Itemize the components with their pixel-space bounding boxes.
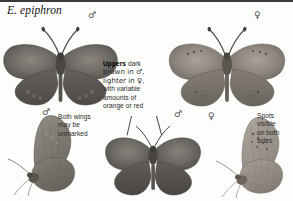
- caption-unmarked-line1: Both wings: [58, 113, 91, 120]
- top-rule: [0, 0, 293, 2]
- caption-uppers-line3: lighter in ♀,: [103, 77, 145, 85]
- specimen-male-upperside-lower: [105, 124, 201, 201]
- sex-symbol-female-top-right: ♀: [254, 11, 261, 20]
- caption-uppers-line6: orange or red: [103, 102, 143, 109]
- specimen-female-upperside: [168, 20, 286, 108]
- caption-uppers-line2: brown in ♂,: [103, 68, 145, 76]
- caption-spots: Spots visible on both sides: [257, 112, 291, 146]
- page-title: E. epiphron: [7, 4, 62, 16]
- caption-spots-line4: sides: [257, 137, 273, 144]
- sex-symbol-male-bottom-center: ♂: [174, 110, 182, 119]
- caption-uppers: Uppers dark brown in ♂, lighter in ♀, wi…: [103, 60, 161, 110]
- caption-uppers-line4: with variable: [103, 85, 140, 92]
- caption-uppers-line1: dark: [126, 60, 141, 67]
- caption-uppers-lead: Uppers: [103, 60, 126, 67]
- sex-symbol-male-top-left: ♂: [88, 11, 96, 20]
- caption-unmarked-line3: unmarked: [58, 130, 88, 137]
- caption-unmarked: Both wings may be unmarked: [58, 113, 108, 138]
- specimen-male-upperside: [2, 20, 118, 108]
- field-guide-page: E. epiphron: [0, 0, 293, 201]
- caption-unmarked-line2: may be: [58, 121, 80, 128]
- sex-symbol-male-bottom-left: ♂: [42, 108, 50, 117]
- caption-uppers-line5: amounts of: [103, 94, 136, 101]
- caption-spots-line1: Spots: [257, 112, 274, 119]
- sex-symbol-female-bottom-right: ♀: [208, 112, 215, 121]
- caption-spots-line2: visible: [257, 120, 276, 127]
- caption-spots-line3: on both: [257, 129, 279, 136]
